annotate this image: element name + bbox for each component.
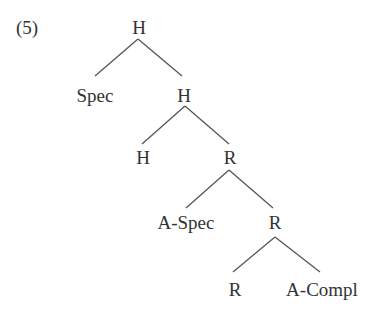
- tree-edge: [185, 106, 229, 144]
- node-root-h: H: [132, 18, 146, 37]
- node-r-level5: R: [229, 280, 242, 299]
- node-r-level3: R: [224, 148, 237, 167]
- node-a-spec: A-Spec: [158, 213, 215, 232]
- tree-edge: [142, 106, 185, 144]
- tree-edge: [186, 170, 229, 208]
- node-h-level2: H: [177, 86, 191, 105]
- node-r-level4: R: [269, 213, 282, 232]
- tree-edge: [233, 237, 275, 272]
- node-spec: Spec: [77, 86, 114, 105]
- syntax-tree: (5) H Spec H H R A-Spec R R A-Compl: [0, 0, 386, 315]
- tree-edge: [275, 237, 320, 272]
- tree-edge: [229, 170, 273, 208]
- tree-edges: [0, 0, 386, 315]
- tree-edge: [95, 39, 138, 76]
- example-number: (5): [16, 18, 38, 37]
- node-h-level3: H: [136, 148, 150, 167]
- node-a-compl: A-Compl: [286, 280, 358, 299]
- tree-edge: [138, 39, 182, 76]
